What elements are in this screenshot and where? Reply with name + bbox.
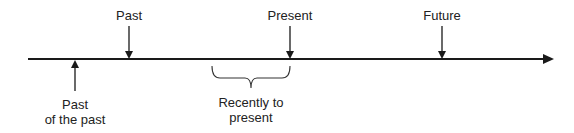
past-label: Past	[116, 8, 142, 23]
past-of-the-past-line1: Past	[45, 97, 106, 112]
recently-to-present-label: Recently to present	[218, 95, 283, 125]
present-arrow-icon	[286, 26, 294, 59]
future-arrow-icon	[438, 26, 446, 59]
axis-arrowhead-icon	[543, 54, 554, 64]
future-label: Future	[423, 8, 461, 23]
past-of-the-past-arrow-icon	[71, 60, 79, 91]
past-of-the-past-line2: of the past	[45, 112, 106, 127]
past-of-the-past-label: Past of the past	[45, 97, 106, 127]
curly-brace-icon	[212, 66, 290, 88]
present-label: Present	[268, 8, 313, 23]
past-arrow-icon	[125, 26, 133, 59]
recently-to-present-line1: Recently to	[218, 95, 283, 110]
recently-to-present-line2: present	[218, 110, 283, 125]
